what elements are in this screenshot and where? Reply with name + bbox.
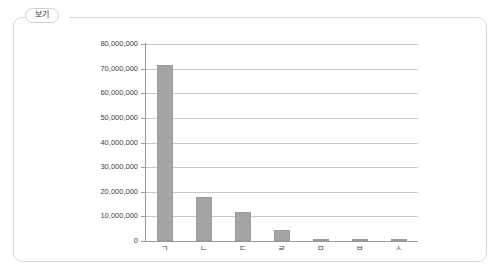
y-axis-tick-label: 20,000,000 xyxy=(76,188,138,196)
y-axis-tick-label: 0 xyxy=(76,237,138,245)
bar xyxy=(274,230,290,241)
bar xyxy=(352,239,368,241)
view-tab[interactable]: 보기 xyxy=(25,8,59,23)
x-axis-tick-label: ㄹ xyxy=(267,245,297,253)
y-axis-tick-label: 30,000,000 xyxy=(76,163,138,171)
bar xyxy=(313,239,329,241)
y-axis-tick-label: 60,000,000 xyxy=(76,89,138,97)
y-axis-tick-label: 80,000,000 xyxy=(76,40,138,48)
bar xyxy=(196,197,212,241)
x-axis-line xyxy=(145,241,418,242)
y-axis-tick-label: 10,000,000 xyxy=(76,212,138,220)
y-axis-tick-label: 70,000,000 xyxy=(76,65,138,73)
x-axis-tick-label: ㅅ xyxy=(384,245,414,253)
y-axis-tick-label: 40,000,000 xyxy=(76,139,138,147)
bar-series xyxy=(145,44,418,241)
bar xyxy=(235,212,251,241)
x-axis-tick-label: ㄱ xyxy=(150,245,180,253)
x-axis-tick-label: ㅂ xyxy=(345,245,375,253)
y-axis-tick-label: 50,000,000 xyxy=(76,114,138,122)
x-axis-tick-label: ㅁ xyxy=(306,245,336,253)
y-axis-labels: 010,000,00020,000,00030,000,00040,000,00… xyxy=(74,0,138,277)
screenshot-root: 보기 010,000,00020,000,00030,000,00040,000… xyxy=(0,0,501,277)
x-axis-labels: ㄱㄴㄷㄹㅁㅂㅅ xyxy=(145,245,418,261)
bar xyxy=(157,65,173,241)
x-axis-tick-label: ㄷ xyxy=(228,245,258,253)
bar xyxy=(391,239,407,241)
bar-chart: 010,000,00020,000,00030,000,00040,000,00… xyxy=(0,0,501,277)
x-axis-tick-label: ㄴ xyxy=(189,245,219,253)
